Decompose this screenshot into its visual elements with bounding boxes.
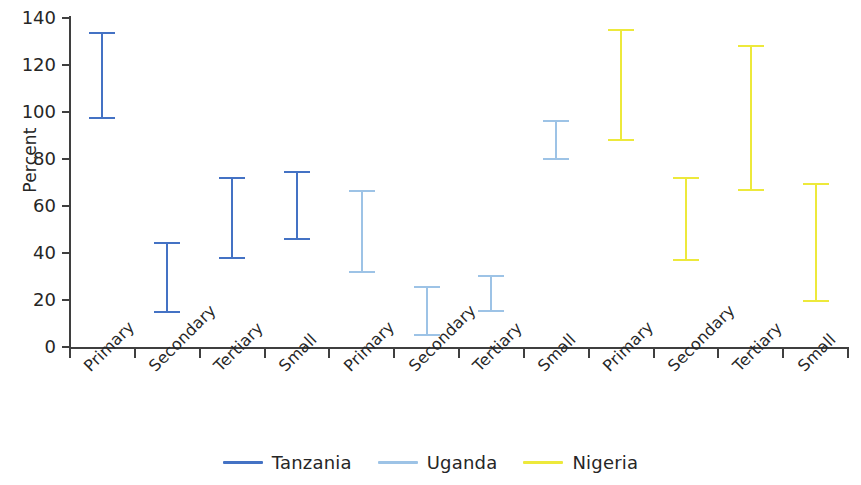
error-bar-cap-lower — [284, 238, 310, 240]
x-axis-tick — [523, 349, 525, 358]
error-bar-cap-upper — [89, 32, 115, 34]
error-bar-cap-upper — [673, 177, 699, 179]
error-bar-cap-upper — [608, 29, 634, 31]
error-bar-cap-lower — [219, 257, 245, 259]
error-bar-cap-upper — [478, 275, 504, 277]
legend-item[interactable]: Nigeria — [523, 452, 638, 473]
x-axis-tick — [328, 349, 330, 358]
error-bar-stem — [750, 45, 752, 191]
error-bar-stem — [685, 177, 687, 262]
error-bar-stem — [426, 286, 428, 337]
error-bar-cap-upper — [284, 171, 310, 173]
error-bar-cap-lower — [478, 310, 504, 312]
error-bar — [219, 177, 245, 259]
error-bar-cap-upper — [803, 183, 829, 185]
error-bar-cap-upper — [738, 45, 764, 47]
x-axis-tick — [134, 349, 136, 358]
legend-label: Tanzania — [272, 452, 352, 473]
error-bar-stem — [490, 275, 492, 311]
error-bar — [414, 286, 440, 337]
error-bar-cap-upper — [154, 242, 180, 244]
error-bar-stem — [166, 242, 168, 313]
y-axis-tick-label: 40 — [0, 244, 56, 262]
error-bar-stem — [620, 29, 622, 142]
x-axis-tick — [653, 349, 655, 358]
y-axis-tick-label: 0 — [0, 338, 56, 356]
x-axis-tick — [264, 349, 266, 358]
error-bar-cap-lower — [803, 300, 829, 302]
error-bar-stem — [296, 171, 298, 240]
y-axis-tick-label: 60 — [0, 197, 56, 215]
error-bar-cap-lower — [414, 334, 440, 336]
legend-swatch-icon — [378, 461, 418, 464]
legend-label: Uganda — [427, 452, 498, 473]
error-bar — [89, 32, 115, 119]
error-bar — [803, 183, 829, 303]
error-bar-cap-lower — [738, 189, 764, 191]
error-bar-cap-lower — [89, 117, 115, 119]
y-axis-tick-label: 20 — [0, 291, 56, 309]
plot-area — [70, 18, 848, 347]
error-bar-stem — [361, 190, 363, 273]
error-bar-cap-lower — [543, 158, 569, 160]
error-bar-cap-lower — [349, 271, 375, 273]
x-axis-tick — [782, 349, 784, 358]
error-bar-cap-upper — [349, 190, 375, 192]
y-axis-tick-label: 100 — [0, 103, 56, 121]
error-bar-stem — [815, 183, 817, 303]
error-bar-cap-lower — [154, 311, 180, 313]
x-axis-tick — [588, 349, 590, 358]
error-bar — [543, 120, 569, 160]
error-bar — [154, 242, 180, 313]
chart-legend: TanzaniaUgandaNigeria — [0, 452, 861, 473]
x-axis-tick — [199, 349, 201, 358]
legend-label: Nigeria — [572, 452, 638, 473]
x-axis-tick — [393, 349, 395, 358]
error-bar — [608, 29, 634, 142]
error-bar-stem — [555, 120, 557, 160]
y-axis-tick-label: 140 — [0, 9, 56, 27]
legend-swatch-icon — [523, 461, 563, 464]
x-axis-tick — [458, 349, 460, 358]
error-bar-stem — [231, 177, 233, 259]
error-bar-cap-upper — [543, 120, 569, 122]
error-bar — [478, 275, 504, 311]
y-axis-tick-label: 80 — [0, 150, 56, 168]
legend-item[interactable]: Tanzania — [223, 452, 352, 473]
x-axis-tick — [717, 349, 719, 358]
error-bar-cap-upper — [414, 286, 440, 288]
x-axis-tick — [69, 349, 71, 358]
legend-swatch-icon — [223, 461, 263, 464]
error-bar-cap-lower — [608, 139, 634, 141]
error-bar-cap-upper — [219, 177, 245, 179]
legend-item[interactable]: Uganda — [378, 452, 498, 473]
error-bar — [673, 177, 699, 262]
x-axis-tick — [847, 349, 849, 358]
error-bar — [284, 171, 310, 240]
error-bar-cap-lower — [673, 259, 699, 261]
y-axis-tick-label: 120 — [0, 56, 56, 74]
error-bar — [738, 45, 764, 191]
error-bar — [349, 190, 375, 273]
chart-container: Percent 020406080100120140 PrimarySecond… — [0, 0, 861, 485]
error-bar-stem — [101, 32, 103, 119]
